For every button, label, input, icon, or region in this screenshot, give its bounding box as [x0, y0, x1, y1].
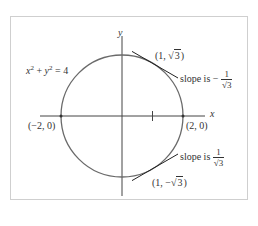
slope-upper-sign: − [213, 73, 219, 84]
label-point-2-0: (2, 0) [186, 121, 208, 131]
slope-upper-denominator: √3 [221, 79, 232, 90]
slope-lower-prefix: slope is [180, 151, 213, 162]
y-axis-label: y [118, 28, 122, 38]
lower-point-close: ) [183, 177, 186, 188]
point-2-0 [182, 115, 185, 118]
label-point-lower: (1, −√3) [152, 178, 187, 188]
label-point-upper: (1, √3) [155, 51, 184, 61]
slope-upper-prefix: slope is [180, 73, 213, 84]
slope-lower-radicand: 3 [219, 158, 224, 168]
sqrt-symbol: √3 [171, 178, 184, 188]
label-point-neg2-0: (−2, 0) [28, 121, 55, 131]
upper-point-open: (1, [155, 50, 168, 61]
slope-upper-radicand: 3 [227, 80, 232, 90]
equation-rhs: = 4 [53, 65, 69, 76]
lower-point-open: (1, − [152, 177, 171, 188]
sqrt-symbol: √3 [168, 51, 181, 61]
upper-point-close: ) [181, 50, 184, 61]
point-neg2-0 [60, 115, 63, 118]
slope-lower-numerator: 1 [213, 148, 224, 157]
slope-upper-fraction: 1 √3 [221, 70, 232, 90]
slope-lower-denominator: √3 [213, 157, 224, 168]
circle-equation: x2 + y2 = 4 [26, 63, 68, 76]
circle-tangent-figure: y x x2 + y2 = 4 (−2, 0) (2, 0) (1, √3) (… [0, 0, 258, 226]
upper-point-radicand: 3 [174, 49, 181, 61]
equation-plus: + [34, 65, 45, 76]
slope-upper-numerator: 1 [221, 70, 232, 79]
x-axis-label: x [210, 109, 214, 119]
label-slope-lower: slope is 1 √3 [180, 148, 224, 168]
plot-svg [0, 0, 258, 226]
slope-lower-fraction: 1 √3 [213, 148, 224, 168]
label-slope-upper: slope is − 1 √3 [180, 70, 232, 90]
